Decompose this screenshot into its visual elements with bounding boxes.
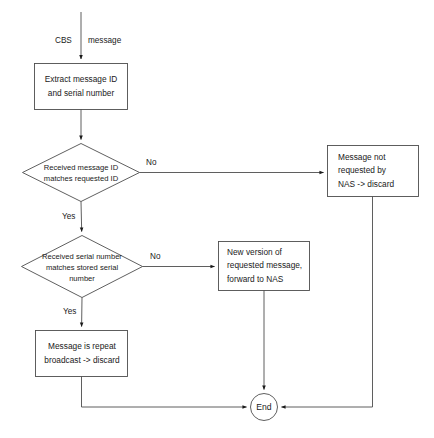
- edge-label-serial-no: No: [150, 252, 160, 262]
- edge-repeat-broadcast-to-end: [82, 377, 247, 408]
- shape-repeat-broadcast-box: [36, 331, 128, 377]
- shape-not-requested-box: [328, 146, 419, 197]
- edge-label-message-id-yes: Yes: [62, 212, 75, 222]
- start-label-cbs: CBS: [55, 36, 72, 46]
- shape-end-circle: [251, 394, 278, 421]
- shape-decision-message-id: [23, 144, 140, 202]
- edge-label-message-id-no: No: [146, 158, 156, 168]
- edge-label-serial-yes: Yes: [63, 307, 76, 317]
- edge-not-requested-to-end: [282, 197, 373, 408]
- flowchart-canvas: Extract message ID and serial number Rec…: [0, 0, 434, 438]
- start-label-message: message: [88, 36, 121, 46]
- edge-message-id-yes-to-decision-serial: [81, 202, 82, 232]
- shape-decision-serial-number: [22, 236, 143, 298]
- shape-new-version-box: [219, 242, 310, 291]
- shape-extract-box: [35, 64, 128, 110]
